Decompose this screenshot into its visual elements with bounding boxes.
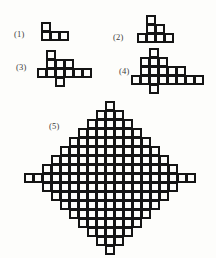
pattern-cell: [164, 33, 174, 43]
stage-label-2: (2): [113, 32, 124, 42]
pattern-cell: [159, 191, 169, 201]
pattern-cell: [168, 182, 178, 192]
pattern-cell: [105, 245, 115, 255]
pattern-cell: [186, 173, 196, 183]
pattern-cell: [194, 75, 204, 85]
pattern-cell: [141, 209, 151, 219]
pattern-cell: [114, 236, 124, 246]
pattern-cell: [149, 84, 159, 94]
pattern-cell: [59, 31, 69, 41]
stage-pattern-5: [24, 101, 195, 254]
pattern-cell: [150, 200, 160, 210]
stage-label-3: (3): [16, 62, 27, 72]
pattern-cell: [55, 77, 65, 87]
pattern-cell: [123, 227, 133, 237]
pattern-cell: [132, 218, 142, 228]
pattern-cell: [82, 68, 92, 78]
stage-pattern-1: [41, 22, 77, 40]
stage-label-4: (4): [119, 66, 130, 76]
stage-pattern-4: [131, 48, 203, 93]
stage-label-1: (1): [14, 29, 25, 39]
figure-plate: (1)(2)(3)(4)(5): [0, 0, 216, 258]
stage-pattern-2: [137, 15, 182, 42]
stage-pattern-3: [37, 50, 100, 86]
